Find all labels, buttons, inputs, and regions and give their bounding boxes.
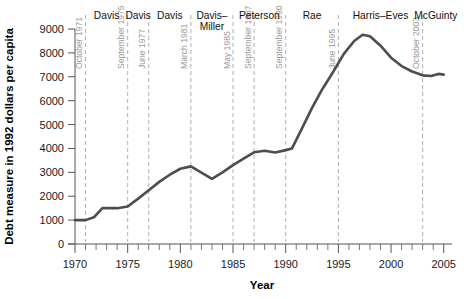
event-date-label-9: October 2003 [411,17,421,69]
event-date-label-3: June 1977 [137,29,147,69]
premier-label-8: McGuinty [414,10,458,21]
event-date-label-4: March 1981 [179,23,189,69]
x-tick-label-0: 1970 [63,258,87,270]
x-tick-label-4: 1990 [273,258,297,270]
event-date-label-5: May 1985 [222,31,232,69]
x-tick-label-7: 2005 [431,258,455,270]
x-axis: 19701975198019851990199520002005 [63,244,456,270]
x-tick-label-2: 1980 [168,258,192,270]
y-tick-label-4: 4000 [40,142,64,154]
x-axis-title: Year [250,279,275,291]
premier-label-7: Harris–Eves [353,10,408,21]
y-axis: 0100020003000400050006000700080009000 [40,23,75,250]
premier-label-2: Davis [125,10,150,21]
y-tick-label-1: 1000 [40,214,64,226]
y-tick-label-9: 9000 [40,23,64,35]
x-tick-label-3: 1985 [221,258,245,270]
premier-label-5: Peterson [239,10,280,21]
debt-per-capita-line-chart: October 1971September 1975June 1977March… [0,0,474,299]
y-tick-label-3: 3000 [40,166,64,178]
y-axis-title: Debt measure in 1992 dollars per capita [3,28,15,245]
x-tick-label-5: 1995 [326,258,350,270]
event-date-label-1: October 1971 [74,17,84,69]
premier-label-4: Davis–Miller [196,10,227,32]
event-date-label-8: June 1995 [327,29,337,69]
y-tick-label-6: 6000 [40,95,64,107]
y-tick-label-7: 7000 [40,71,64,83]
x-tick-label-1: 1975 [115,258,139,270]
y-tick-label-0: 0 [58,238,64,250]
premier-label-3: Davis [157,10,182,21]
y-tick-label-8: 8000 [40,47,64,59]
y-tick-label-2: 2000 [40,190,64,202]
chart-container: October 1971September 1975June 1977March… [0,0,474,299]
premier-label-6: Rae [303,10,322,21]
y-tick-label-5: 5000 [40,119,64,131]
premier-label-1: Davis [94,10,119,21]
series-line-1 [75,35,444,220]
x-tick-label-6: 2000 [379,258,403,270]
